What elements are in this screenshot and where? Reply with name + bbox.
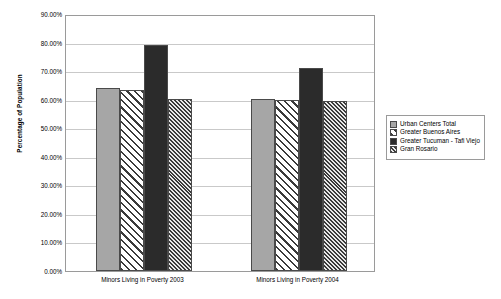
y-axis-tick-label: 30.00% bbox=[22, 183, 62, 189]
legend-item[interactable]: Greater Tucuman - Tafi Viejo bbox=[390, 138, 480, 145]
y-axis-tick-label: 20.00% bbox=[22, 212, 62, 218]
bar-group bbox=[221, 16, 376, 271]
bar-chart: Percentage of Population 0.00%10.00%20.0… bbox=[0, 0, 501, 299]
y-axis-tick-label: 60.00% bbox=[22, 98, 62, 104]
y-axis-tick-label: 40.00% bbox=[22, 155, 62, 161]
bar bbox=[323, 101, 347, 271]
legend-swatch-icon bbox=[390, 138, 397, 145]
legend-item-label: Greater Tucuman - Tafi Viejo bbox=[400, 138, 480, 144]
bars-layer bbox=[66, 16, 374, 271]
y-axis-tick-label: 0.00% bbox=[22, 269, 62, 275]
bar bbox=[120, 90, 144, 271]
y-axis-tick-labels: 0.00%10.00%20.00%30.00%40.00%50.00%60.00… bbox=[22, 0, 62, 299]
y-axis-tick-label: 70.00% bbox=[22, 69, 62, 75]
bar bbox=[96, 88, 120, 271]
bar bbox=[251, 99, 275, 271]
y-axis-tick-label: 90.00% bbox=[22, 12, 62, 18]
legend-swatch-icon bbox=[390, 121, 397, 128]
y-axis-tick-label: 80.00% bbox=[22, 40, 62, 46]
chart-legend: Urban Centers TotalGreater Buenos AiresG… bbox=[386, 115, 485, 160]
legend-item[interactable]: Gran Rosario bbox=[390, 146, 480, 153]
bar bbox=[144, 45, 168, 271]
x-axis-tick-label: Minors Living in Poverty 2003 bbox=[101, 276, 184, 283]
legend-item-label: Gran Rosario bbox=[400, 146, 437, 152]
legend-item[interactable]: Greater Buenos Aires bbox=[390, 129, 480, 136]
bar bbox=[168, 99, 192, 271]
plot-area bbox=[65, 15, 375, 272]
y-axis-tick-label: 10.00% bbox=[22, 240, 62, 246]
legend-item-label: Greater Buenos Aires bbox=[400, 129, 460, 135]
bar bbox=[275, 100, 299, 271]
legend-swatch-icon bbox=[390, 129, 397, 136]
legend-item-label: Urban Centers Total bbox=[400, 121, 456, 127]
legend-swatch-icon bbox=[390, 146, 397, 153]
y-axis-tick-label: 50.00% bbox=[22, 126, 62, 132]
legend-item[interactable]: Urban Centers Total bbox=[390, 121, 480, 128]
x-axis-tick-label: Minors Living in Poverty 2004 bbox=[256, 276, 339, 283]
bar bbox=[299, 68, 323, 271]
bar-group bbox=[66, 16, 221, 271]
